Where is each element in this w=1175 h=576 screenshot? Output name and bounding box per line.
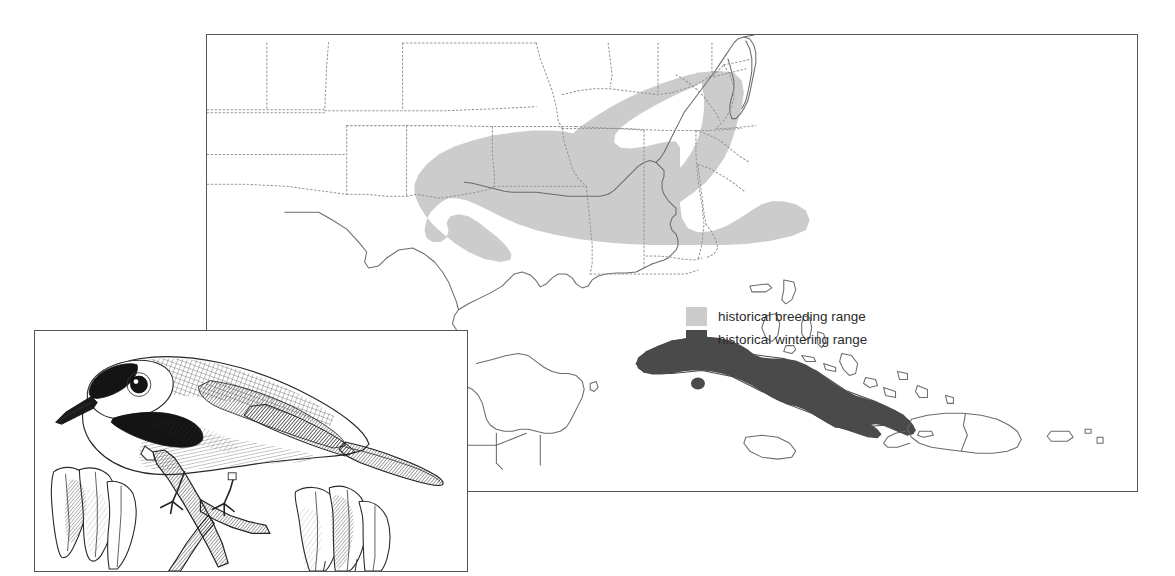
coastline-northeast-hint — [744, 35, 754, 37]
state-border-oklahoma-panhandle — [347, 194, 407, 196]
island-abaco — [782, 280, 796, 304]
island-virgin-2 — [1097, 437, 1103, 443]
bird-eye — [131, 376, 148, 393]
island-long — [840, 354, 858, 376]
foliage-right-group — [295, 486, 390, 571]
island-acklins — [884, 387, 896, 397]
state-border-kansas-nebraska — [325, 107, 537, 111]
leaf-left-3 — [107, 481, 136, 569]
state-border-plains-v3 — [207, 184, 347, 194]
island-exuma-1 — [802, 356, 816, 362]
legend-label-wintering: historical wintering range — [718, 333, 867, 347]
legend-swatch-wintering — [686, 330, 707, 349]
coastline-gulf-usa — [458, 264, 652, 310]
legend-label-breeding: historical breeding range — [718, 310, 866, 324]
figure-root: historical breeding range historical win… — [0, 0, 1175, 576]
island-crooked — [864, 377, 878, 387]
island-grand-bahama — [750, 284, 772, 292]
legend-swatch-breeding — [686, 307, 707, 326]
island-inagua — [915, 385, 927, 397]
island-turks — [945, 395, 953, 403]
island-virgin-1 — [1085, 429, 1091, 433]
bird-toe-front-1 — [161, 502, 173, 508]
state-border-h1 — [207, 41, 329, 110]
map-legend: historical breeding range historical win… — [686, 306, 916, 352]
state-border-il-in — [608, 43, 612, 87]
bird-toe-front-2 — [171, 502, 173, 514]
state-border-kansas-oklahoma — [347, 126, 493, 127]
bird-toe-rear-3 — [224, 504, 234, 512]
border-belize-guatemala — [496, 433, 502, 469]
bird-toe-front-3 — [173, 502, 183, 510]
bird-eye-highlight — [134, 379, 139, 384]
state-border-ms-al-gulf — [590, 270, 698, 274]
bird-illustration-panel — [34, 330, 468, 572]
legend-row-wintering: historical wintering range — [686, 329, 916, 350]
foliage-left-group — [51, 467, 136, 569]
wintering-range-isle-of-youth — [691, 377, 705, 389]
coastline-cozumel — [590, 381, 598, 391]
border-haiti-dominican — [961, 414, 967, 451]
state-border-ga-fl — [646, 256, 702, 260]
coastline-delmarva-inner — [742, 41, 752, 109]
island-jamaica — [744, 435, 796, 459]
bird-leg-band — [228, 473, 236, 480]
island-puerto-rico — [1047, 431, 1073, 441]
state-border-mo-il — [536, 43, 562, 129]
island-mayaguana — [898, 372, 908, 380]
breeding-range-shape — [415, 73, 810, 262]
island-exuma-2 — [824, 364, 836, 372]
legend-row-breeding: historical breeding range — [686, 306, 916, 327]
bird-tail — [339, 442, 443, 485]
island-gonave — [917, 431, 933, 437]
bachmans-warbler-illustration — [35, 331, 467, 571]
